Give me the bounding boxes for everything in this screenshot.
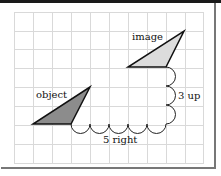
object-label: object	[36, 89, 67, 100]
image-label: image	[132, 31, 163, 42]
vertical-move-arcs	[166, 67, 176, 124]
vertical-move-label: 3 up	[178, 90, 200, 101]
translation-diagram: image object 3 up 5 right	[0, 0, 221, 176]
horizontal-move-label: 5 right	[103, 134, 137, 145]
